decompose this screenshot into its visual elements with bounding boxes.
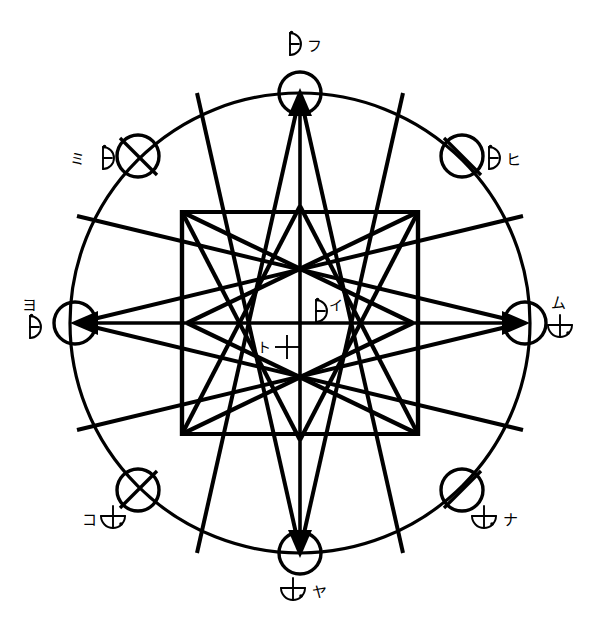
center-label-upper: イ bbox=[316, 297, 343, 322]
center-label-lower-kana: ト bbox=[257, 339, 271, 355]
label-southwest-kana: コ bbox=[82, 511, 97, 529]
label-west: ヨ bbox=[22, 296, 41, 338]
label-southwest: コ bbox=[82, 506, 125, 529]
label-northwest: ミ bbox=[70, 145, 114, 169]
label-west-kana: ヨ bbox=[22, 296, 37, 314]
center-label-lower: ト bbox=[257, 335, 299, 359]
label-southeast-kana: ナ bbox=[503, 511, 518, 529]
center-label-upper-kana: イ bbox=[329, 297, 343, 313]
label-north: フ bbox=[290, 31, 322, 55]
half-moon-with-dot-icon bbox=[316, 298, 327, 322]
arrowhead-east-icon bbox=[502, 311, 530, 335]
cross-plus-icon bbox=[275, 335, 299, 359]
cup-with-dot-icon bbox=[101, 506, 125, 528]
diagram-canvas: フ ヒ ム ナ ヤ bbox=[0, 0, 602, 642]
label-southeast: ナ bbox=[472, 506, 518, 529]
half-moon-with-dot-icon bbox=[103, 145, 114, 169]
label-northeast-kana: ヒ bbox=[506, 151, 521, 169]
label-north-kana: フ bbox=[307, 37, 322, 55]
half-moon-with-dot-icon bbox=[290, 31, 301, 55]
label-south: ヤ bbox=[281, 578, 327, 601]
cup-with-dot-icon bbox=[548, 315, 572, 337]
cup-with-dot-icon bbox=[281, 578, 305, 600]
cup-with-dot-icon bbox=[472, 506, 496, 528]
label-east-kana: ム bbox=[551, 294, 566, 312]
arrowhead-west-icon bbox=[70, 311, 98, 335]
label-east: ム bbox=[548, 294, 572, 337]
half-moon-with-dot-icon bbox=[30, 314, 41, 338]
label-south-kana: ヤ bbox=[312, 583, 327, 601]
half-moon-with-dot-icon bbox=[489, 145, 500, 169]
label-northeast: ヒ bbox=[489, 145, 521, 169]
label-northwest-kana: ミ bbox=[70, 150, 85, 168]
ritual-circle-figure: フ ヒ ム ナ ヤ bbox=[0, 0, 602, 642]
